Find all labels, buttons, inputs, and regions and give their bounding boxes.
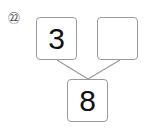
connector-left xyxy=(57,60,88,79)
whole-box: 8 xyxy=(67,79,108,122)
connector-right xyxy=(88,60,120,79)
part-left-box: 3 xyxy=(36,17,77,60)
part-right-answer-box[interactable] xyxy=(97,17,138,60)
